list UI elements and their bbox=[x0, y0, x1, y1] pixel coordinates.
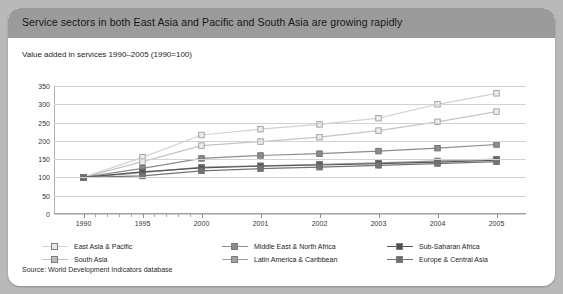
legend-marker-icon bbox=[396, 256, 403, 263]
data-point-marker bbox=[494, 109, 500, 115]
y-axis-tick-label: 250 bbox=[38, 119, 50, 126]
data-point-marker bbox=[494, 91, 500, 97]
data-point-marker bbox=[258, 153, 264, 159]
x-axis-tick bbox=[202, 214, 203, 218]
x-axis-minor-tick bbox=[131, 214, 132, 217]
legend-item-label: Middle East & North Africa bbox=[254, 243, 336, 250]
x-axis-tick-label: 2001 bbox=[253, 220, 269, 227]
x-axis-tick bbox=[320, 214, 321, 218]
legend-marker-icon bbox=[51, 243, 58, 250]
legend-swatch-icon bbox=[42, 255, 68, 264]
legend-item-label: East Asia & Pacific bbox=[74, 243, 132, 250]
x-axis-tick-label: 1995 bbox=[135, 220, 151, 227]
x-axis-tick-label: 2000 bbox=[194, 220, 210, 227]
data-point-marker bbox=[376, 115, 382, 121]
legend-marker-icon bbox=[51, 256, 58, 263]
gridline bbox=[54, 196, 526, 197]
legend-marker-icon bbox=[231, 256, 238, 263]
x-axis-minor-tick bbox=[178, 214, 179, 217]
chart-subtitle: Value added in services 1990–2005 (1990=… bbox=[22, 50, 192, 59]
source-note: Source: World Development Indicators dat… bbox=[22, 266, 172, 273]
x-axis-tick-label: 2004 bbox=[430, 220, 446, 227]
page-title: Service sectors in both East Asia and Pa… bbox=[22, 16, 402, 28]
y-axis-tick-label: 150 bbox=[38, 156, 50, 163]
x-axis-minor-tick bbox=[95, 214, 96, 217]
data-point-marker bbox=[199, 143, 205, 149]
y-axis-tick-label: 50 bbox=[42, 192, 50, 199]
legend-swatch-icon bbox=[222, 255, 248, 264]
y-axis-tick-label: 200 bbox=[38, 137, 50, 144]
screenshot-root: Service sectors in both East Asia and Pa… bbox=[0, 0, 563, 294]
legend-item[interactable]: Europe & Central Asia bbox=[387, 254, 488, 265]
y-axis-tick-label: 0 bbox=[46, 211, 50, 218]
x-axis-tick bbox=[497, 214, 498, 218]
gridline bbox=[54, 123, 526, 124]
legend-item[interactable]: South Asia bbox=[42, 254, 107, 265]
data-point-marker bbox=[199, 168, 205, 174]
legend-swatch-icon bbox=[387, 242, 413, 251]
x-axis-minor-tick bbox=[166, 214, 167, 217]
gridline bbox=[54, 214, 526, 215]
data-point-marker bbox=[258, 126, 264, 132]
legend-item[interactable]: East Asia & Pacific bbox=[42, 241, 132, 252]
chart-area: 3503002502001501005001990199520002001200… bbox=[22, 64, 542, 234]
x-axis-tick bbox=[84, 214, 85, 218]
chart-legend: East Asia & PacificMiddle East & North A… bbox=[22, 241, 542, 267]
legend-item[interactable]: Sub-Saharan Africa bbox=[387, 241, 480, 252]
x-axis-tick bbox=[143, 214, 144, 218]
legend-item-label: Europe & Central Asia bbox=[419, 256, 488, 263]
x-axis-tick-label: 1990 bbox=[76, 220, 92, 227]
x-axis-minor-tick bbox=[154, 214, 155, 217]
data-point-marker bbox=[435, 161, 441, 167]
x-axis-tick bbox=[261, 214, 262, 218]
data-point-marker bbox=[376, 128, 382, 134]
x-axis-tick-label: 2003 bbox=[371, 220, 387, 227]
legend-item-label: Latin America & Caribbean bbox=[254, 256, 337, 263]
plot-canvas: 3503002502001501005001990199520002001200… bbox=[54, 86, 526, 214]
legend-swatch-icon bbox=[42, 242, 68, 251]
chart-card: Service sectors in both East Asia and Pa… bbox=[8, 8, 555, 286]
data-point-marker bbox=[494, 142, 500, 148]
legend-swatch-icon bbox=[222, 242, 248, 251]
gridline bbox=[54, 177, 526, 178]
x-axis-tick bbox=[438, 214, 439, 218]
x-axis-tick-label: 2005 bbox=[489, 220, 505, 227]
legend-item[interactable]: Latin America & Caribbean bbox=[222, 254, 337, 265]
legend-item[interactable]: Middle East & North Africa bbox=[222, 241, 336, 252]
y-axis-tick-label: 350 bbox=[38, 83, 50, 90]
x-axis-tick bbox=[379, 214, 380, 218]
legend-swatch-icon bbox=[387, 255, 413, 264]
x-axis-tick-label: 2002 bbox=[312, 220, 328, 227]
x-axis-minor-tick bbox=[107, 214, 108, 217]
data-point-marker bbox=[258, 166, 264, 172]
y-axis-tick-label: 300 bbox=[38, 101, 50, 108]
data-point-marker bbox=[376, 148, 382, 154]
legend-marker-icon bbox=[396, 243, 403, 250]
legend-marker-icon bbox=[231, 243, 238, 250]
data-point-marker bbox=[376, 163, 382, 169]
gridline bbox=[54, 141, 526, 142]
data-point-marker bbox=[317, 134, 323, 140]
data-point-marker bbox=[317, 151, 323, 157]
x-axis-minor-tick bbox=[119, 214, 120, 217]
x-axis-minor-tick bbox=[190, 214, 191, 217]
gridline bbox=[54, 86, 526, 87]
data-point-marker bbox=[199, 132, 205, 138]
gridline bbox=[54, 104, 526, 105]
data-point-marker bbox=[435, 145, 441, 151]
gridline bbox=[54, 159, 526, 160]
legend-item-label: Sub-Saharan Africa bbox=[419, 243, 480, 250]
y-axis-tick-label: 100 bbox=[38, 174, 50, 181]
legend-item-label: South Asia bbox=[74, 256, 107, 263]
data-point-marker bbox=[317, 164, 323, 170]
